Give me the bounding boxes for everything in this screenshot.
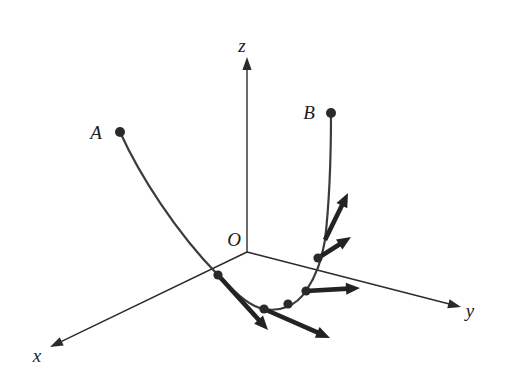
tangent-vectors-group	[218, 193, 360, 338]
y-axis-line	[247, 252, 451, 305]
z-axis-label: z	[237, 35, 246, 56]
tangent-vector-2-shaft	[264, 309, 319, 333]
tangent-vector-2	[264, 309, 330, 338]
tangent-vector-1-shaft	[218, 275, 260, 321]
curve-point-4	[301, 286, 310, 295]
point-B-dot	[326, 108, 336, 118]
tangent-vector-3-shaft	[306, 289, 348, 291]
x-axis	[50, 252, 247, 347]
x-axis-line	[59, 252, 247, 343]
point-A-dot	[115, 127, 125, 137]
curve-point-5	[313, 253, 322, 262]
tangent-vector-3-arrowhead	[346, 283, 360, 295]
curve-point-2	[259, 304, 268, 313]
axes-group	[50, 57, 461, 347]
y-axis-label: y	[464, 300, 475, 321]
curve-point-1	[213, 270, 222, 279]
z-axis-arrowhead	[242, 57, 251, 70]
z-axis	[242, 57, 251, 252]
tangent-vector-1	[218, 275, 268, 330]
tangent-vector-3	[306, 283, 360, 295]
x-axis-arrowhead	[50, 337, 64, 347]
point-B-label: B	[303, 102, 315, 123]
origin-label: O	[227, 229, 241, 250]
curve-points-group	[213, 253, 322, 313]
point-A-label: A	[88, 122, 102, 143]
space-curve-diagram: xyzOAB	[0, 0, 510, 384]
curve-point-3	[283, 299, 292, 308]
x-axis-label: x	[32, 345, 42, 366]
y-axis-arrowhead	[447, 299, 461, 308]
figure-canvas: xyzOAB	[0, 0, 510, 384]
y-axis	[247, 252, 461, 308]
